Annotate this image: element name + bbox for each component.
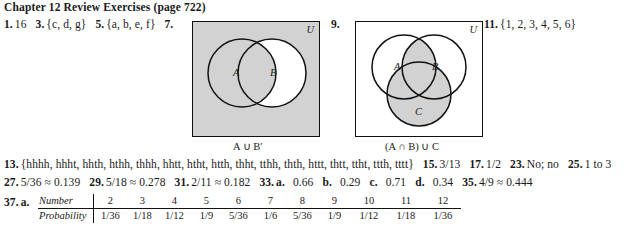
problem-33-part-a-value: 0.66 bbox=[293, 176, 314, 188]
problem-33-part-d-value: 0.34 bbox=[433, 176, 454, 188]
table-cell-probability-6: 5/36 bbox=[286, 209, 318, 224]
answer-line-11: 11.{1, 2, 3, 4, 5, 6} bbox=[484, 18, 576, 30]
venn2-caption: (A ∩ B) ∪ C bbox=[385, 140, 439, 152]
problem-answer-3: {c, d, g} bbox=[46, 18, 86, 30]
problem-33-part-a-label: a. bbox=[276, 176, 285, 188]
problem-number-9: 9. bbox=[331, 18, 340, 30]
venn1-universe-label: U bbox=[306, 24, 314, 35]
problem-number-35: 35. bbox=[462, 176, 477, 188]
table-cell-number-7: 9 bbox=[318, 194, 350, 209]
problem-33-part-c-value: 0.71 bbox=[386, 176, 407, 188]
problem-number-9-wrap: 9. bbox=[331, 18, 342, 30]
table-rowheader-probability: Probability bbox=[38, 209, 94, 224]
venn2-set-b-label: B bbox=[432, 61, 438, 72]
problem-number-25: 25. bbox=[568, 158, 583, 170]
answer-line-13: 13.{hhhh, hhht, hhth, hthh, thhh, hhtt, … bbox=[4, 158, 611, 170]
problem-answer-17: 1/2 bbox=[486, 158, 501, 170]
problem-answer-31: 2/11 ≈ 0.182 bbox=[191, 176, 250, 188]
table-row-probability: Probability 1/36 1/18 1/12 1/9 5/36 1/6 … bbox=[38, 209, 461, 224]
problem-answer-15: 3/13 bbox=[440, 158, 461, 170]
table-cell-probability-7: 1/9 bbox=[318, 209, 350, 224]
problem-number-23: 23. bbox=[510, 158, 525, 170]
problem-number-31: 31. bbox=[175, 176, 190, 188]
venn1-universe-box: U A B bbox=[192, 21, 320, 137]
venn1-set-b-label: B bbox=[270, 67, 276, 78]
answer-line-37: 37.a. bbox=[4, 196, 32, 208]
problem-answer-27: 5/36 ≈ 0.139 bbox=[21, 176, 81, 188]
problem-answer-29: 5/18 ≈ 0.278 bbox=[106, 176, 166, 188]
venn1-svg bbox=[193, 22, 319, 136]
problem-33-part-b-label: b. bbox=[322, 176, 331, 188]
table-rowheader-number: Number bbox=[38, 194, 94, 209]
venn1-set-a-label: A bbox=[233, 67, 239, 78]
problem-answer-11: {1, 2, 3, 4, 5, 6} bbox=[500, 18, 576, 30]
table-cell-number-5: 7 bbox=[254, 194, 286, 209]
problem-number-7: 7. bbox=[165, 18, 174, 30]
table-cell-probability-0: 1/36 bbox=[94, 209, 127, 224]
table-cell-probability-10: 1/36 bbox=[424, 209, 461, 224]
answer-line-27: 27.5/36 ≈ 0.13929.5/18 ≈ 0.27831.2/11 ≈ … bbox=[4, 176, 533, 188]
problem-number-1: 1. bbox=[4, 18, 13, 30]
table-cell-probability-8: 1/12 bbox=[350, 209, 387, 224]
probability-distribution-table: Number 2 3 4 5 6 7 8 9 10 11 12 Probabil… bbox=[38, 194, 461, 223]
table-cell-number-3: 5 bbox=[190, 194, 222, 209]
problem-33-part-c-label: c. bbox=[369, 176, 377, 188]
venn2-svg bbox=[356, 22, 482, 136]
problem-answer-35: 4/9 ≈ 0.444 bbox=[479, 176, 533, 188]
table-cell-number-9: 11 bbox=[387, 194, 424, 209]
venn1-caption: A ∪ B′ bbox=[233, 140, 263, 152]
venn2-set-c-label: C bbox=[415, 106, 422, 117]
table-cell-number-8: 10 bbox=[350, 194, 387, 209]
table-row-number: Number 2 3 4 5 6 7 8 9 10 11 12 bbox=[38, 194, 461, 209]
venn2-universe-label: U bbox=[469, 24, 477, 35]
table-cell-probability-5: 1/6 bbox=[254, 209, 286, 224]
answer-key-page: Chapter 12 Review Exercises (page 722) 1… bbox=[0, 0, 642, 229]
table-cell-probability-2: 1/12 bbox=[158, 209, 190, 224]
table-cell-number-4: 6 bbox=[222, 194, 254, 209]
problem-number-11: 11. bbox=[484, 18, 498, 30]
venn2-set-a-label: A bbox=[394, 61, 400, 72]
venn2-universe-box: U A B C bbox=[355, 21, 483, 137]
problem-answer-5: {a, b, e, f} bbox=[106, 18, 155, 30]
table-cell-probability-1: 1/18 bbox=[126, 209, 158, 224]
problem-answer-1: 16 bbox=[15, 18, 27, 30]
problem-answer-25: 1 to 3 bbox=[585, 158, 612, 170]
problem-answer-13: {hhhh, hhht, hhth, hthh, thhh, hhtt, hth… bbox=[21, 158, 414, 170]
problem-number-3: 3. bbox=[36, 18, 45, 30]
table-cell-number-1: 3 bbox=[126, 194, 158, 209]
problem-answer-23: No; no bbox=[527, 158, 559, 170]
table-cell-number-0: 2 bbox=[94, 194, 127, 209]
table-cell-number-6: 8 bbox=[286, 194, 318, 209]
table-cell-number-10: 12 bbox=[424, 194, 461, 209]
problem-37-part-a-label: a. bbox=[21, 196, 30, 208]
problem-number-27: 27. bbox=[4, 176, 19, 188]
answer-line-1: 1.163.{c, d, g}5.{a, b, e, f}7. bbox=[4, 18, 175, 30]
table-cell-probability-3: 1/9 bbox=[190, 209, 222, 224]
page-title: Chapter 12 Review Exercises (page 722) bbox=[4, 1, 206, 13]
problem-number-15: 15. bbox=[423, 158, 438, 170]
problem-33-part-d-label: d. bbox=[415, 176, 424, 188]
problem-33-part-b-value: 0.29 bbox=[340, 176, 361, 188]
problem-number-17: 17. bbox=[469, 158, 484, 170]
table-cell-number-2: 4 bbox=[158, 194, 190, 209]
problem-number-33: 33. bbox=[259, 176, 274, 188]
table-cell-probability-4: 5/36 bbox=[222, 209, 254, 224]
problem-number-13: 13. bbox=[4, 158, 19, 170]
problem-number-37: 37. bbox=[4, 196, 19, 208]
table-cell-probability-9: 1/18 bbox=[387, 209, 424, 224]
problem-number-5: 5. bbox=[95, 18, 104, 30]
problem-number-29: 29. bbox=[89, 176, 104, 188]
